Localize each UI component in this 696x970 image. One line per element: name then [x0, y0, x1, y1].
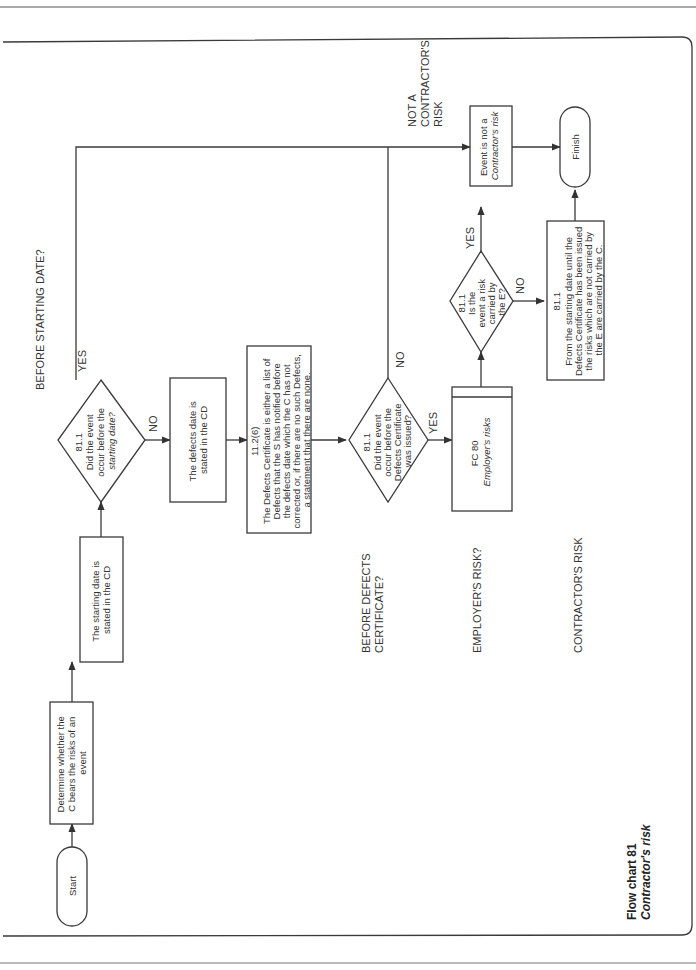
node-starting-date: The starting date is stated in the CD: [80, 537, 123, 662]
node-decision-before-defects-certificate: 81.1 Did the event occur before the Defe…: [349, 378, 428, 502]
no-label-3: NO: [514, 277, 526, 294]
node-decision-employer-risk: 81.1 Is the event a risk carried by the …: [450, 251, 513, 352]
chart-caption: Flow chart 81 Contractor's risk: [625, 823, 653, 920]
yes-label-3: YES: [464, 227, 476, 249]
flowchart-canvas: Start Determine whether the C bears the …: [0, 0, 696, 970]
node-contractor-risks: 81.1 From the starting date until the De…: [547, 221, 604, 380]
no-label-2: NO: [394, 351, 406, 368]
lane-contractors-risk: CONTRACTOR'S RISK: [572, 537, 584, 653]
lane-before-starting-date: BEFORE STARTING DATE?: [34, 249, 46, 390]
svg-text:The defects date is stat: The defects date is stated in the CD: [187, 399, 209, 482]
yes-label-2: YES: [427, 412, 439, 434]
lane-before-defects-certificate: BEFORE DEFECTS CERTIFICATE?: [360, 550, 385, 653]
node-fc80-employers-risks: FC 80 Employer's risks: [452, 387, 512, 511]
node-defects-date: The defects date is stated in the CD: [170, 378, 226, 502]
svg-text:Finish: Finish: [570, 134, 581, 159]
node-finish: Finish: [560, 107, 590, 187]
node-determine: Determine whether the C bears the risks …: [50, 702, 93, 824]
edge-decision1-yes: [76, 147, 470, 380]
yes-label-1: YES: [76, 350, 88, 372]
node-defects-certificate: 11.2(6) The Defects Certificate is eithe…: [247, 346, 312, 533]
svg-text:Start: Start: [67, 876, 78, 896]
node-decision-before-starting-date: 81.1 Did the event occur before the star…: [58, 380, 145, 502]
svg-text:The starting date is sta: The starting date is stated in the CD: [90, 558, 112, 641]
svg-text:Event is not a Contracto: Event is not a Contractor's risk: [478, 111, 500, 181]
lane-employers-risk: EMPLOYER'S RISK?: [471, 548, 483, 653]
node-start: Start: [57, 847, 87, 926]
lane-not-contractors-risk: NOT A CONTRACTOR'S RISK: [406, 37, 444, 127]
no-label-1: NO: [147, 415, 159, 432]
node-not-contractors-risk: Event is not a Contractor's risk: [470, 106, 512, 186]
